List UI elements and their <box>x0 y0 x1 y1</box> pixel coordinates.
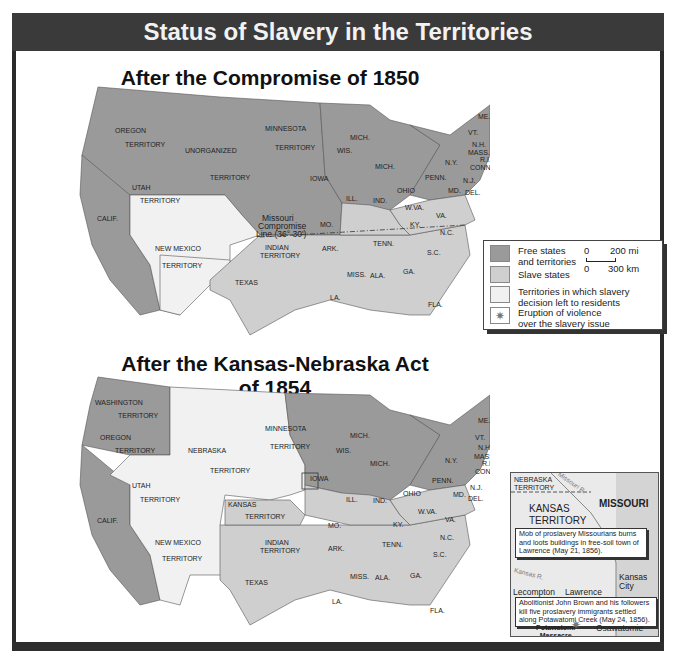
svg-text:TENN.: TENN. <box>382 541 403 548</box>
svg-text:NEBRASKA: NEBRASKA <box>188 447 226 454</box>
svg-text:N.Y.: N.Y. <box>445 457 458 464</box>
svg-text:FLA.: FLA. <box>428 301 443 308</box>
svg-text:N.H.: N.H. <box>472 141 486 148</box>
svg-text:R.I.: R.I. <box>482 460 490 467</box>
svg-text:W.VA.: W.VA. <box>418 508 437 515</box>
svg-text:LA.: LA. <box>332 598 343 605</box>
starburst-icon: ✷ <box>490 307 510 324</box>
svg-text:VT.: VT. <box>468 129 478 136</box>
svg-text:TERRITORY: TERRITORY <box>275 144 316 151</box>
svg-text:MD.: MD. <box>453 491 466 498</box>
svg-text:MICH.: MICH. <box>350 432 370 439</box>
svg-text:S.C.: S.C. <box>433 551 447 558</box>
svg-text:TERRITORY: TERRITORY <box>118 412 159 419</box>
svg-text:VA.: VA. <box>445 516 456 523</box>
svg-text:INDIAN: INDIAN <box>265 244 289 251</box>
svg-text:TENN.: TENN. <box>373 240 394 247</box>
legend-item-violence: ✷ Eruption of violenceover the slavery i… <box>490 307 610 329</box>
svg-text:MD.: MD. <box>448 187 461 194</box>
free-swatch <box>490 245 510 262</box>
map-1854: WASHINGTON TERRITORY OREGON TERRITORY NE… <box>70 375 490 635</box>
svg-text:OHIO: OHIO <box>403 490 421 497</box>
svg-text:MO.: MO. <box>328 522 341 529</box>
svg-text:IND.: IND. <box>373 497 387 504</box>
svg-text:ME.: ME. <box>478 113 490 120</box>
svg-text:ILL.: ILL. <box>346 496 358 503</box>
svg-text:INDIAN: INDIAN <box>265 539 289 546</box>
svg-text:UNORGANIZED: UNORGANIZED <box>185 147 237 154</box>
svg-text:TERRITORY: TERRITORY <box>260 252 301 259</box>
svg-text:TERRITORY: TERRITORY <box>245 513 286 520</box>
svg-text:NEW MEXICO: NEW MEXICO <box>155 539 201 546</box>
svg-text:NEW MEXICO: NEW MEXICO <box>155 245 201 252</box>
svg-text:N.J.: N.J. <box>463 177 476 184</box>
svg-text:UTAH: UTAH <box>132 482 151 489</box>
kansas-inset-map: NEBRASKATERRITORY Missouri R. MISSOURI K… <box>510 472 659 637</box>
svg-text:MINNESOTA: MINNESOTA <box>265 425 306 432</box>
svg-text:PENN.: PENN. <box>425 174 446 181</box>
svg-text:MISS.: MISS. <box>350 573 369 580</box>
svg-text:TERRITORY: TERRITORY <box>260 547 301 554</box>
svg-text:IND.: IND. <box>373 197 387 204</box>
svg-text:ARK.: ARK. <box>328 545 344 552</box>
svg-text:MICH.: MICH. <box>370 460 390 467</box>
svg-text:VT.: VT. <box>475 434 485 441</box>
svg-text:W.VA.: W.VA. <box>405 204 424 211</box>
svg-text:KY.: KY. <box>393 521 403 528</box>
svg-text:KY.: KY. <box>410 221 420 228</box>
svg-text:S.C.: S.C. <box>427 249 441 256</box>
frame-bottom-border <box>12 642 664 651</box>
svg-text:UTAH: UTAH <box>132 184 151 191</box>
svg-text:N.J.: N.J. <box>470 484 483 491</box>
open-swatch <box>490 286 510 303</box>
svg-text:N.C.: N.C. <box>440 534 454 541</box>
svg-text:MO.: MO. <box>320 221 333 228</box>
svg-text:OREGON: OREGON <box>115 127 146 134</box>
svg-text:R.I.: R.I. <box>480 156 490 163</box>
svg-text:TEXAS: TEXAS <box>235 279 258 286</box>
svg-text:ARK.: ARK. <box>322 245 338 252</box>
svg-text:DEL.: DEL. <box>465 189 481 196</box>
svg-text:MICH.: MICH. <box>350 134 370 141</box>
svg-text:GA.: GA. <box>410 572 422 579</box>
svg-text:TERRITORY: TERRITORY <box>115 447 156 454</box>
scale-bar: 0 200 mi 0 300 km <box>584 245 658 281</box>
svg-text:TERRITORY: TERRITORY <box>125 141 166 148</box>
svg-text:MASS.: MASS. <box>468 149 490 156</box>
svg-text:MINNESOTA: MINNESOTA <box>265 125 306 132</box>
svg-text:OHIO: OHIO <box>397 187 415 194</box>
label-potawatomi-massacre: PotawatomiMassacre <box>536 624 575 637</box>
svg-text:FLA.: FLA. <box>430 607 445 614</box>
svg-text:TERRITORY: TERRITORY <box>270 443 311 450</box>
page-title: Status of Slavery in the Territories <box>12 13 664 51</box>
svg-text:PENN.: PENN. <box>432 477 453 484</box>
starburst-icon: ✷ <box>571 618 581 632</box>
svg-text:ILL.: ILL. <box>346 195 358 202</box>
map-1850: OREGON TERRITORY UNORGANIZED TERRITORY M… <box>70 85 490 345</box>
svg-text:N.C.: N.C. <box>440 229 454 236</box>
svg-text:OREGON: OREGON <box>100 434 131 441</box>
svg-text:VA.: VA. <box>436 212 447 219</box>
svg-text:TERRITORY: TERRITORY <box>162 262 203 269</box>
label-kansas-territory: KANSASTERRITORY <box>529 503 586 527</box>
label-missouri: MISSOURI <box>599 498 648 509</box>
svg-text:TERRITORY: TERRITORY <box>162 555 203 562</box>
label-nebraska-territory: NEBRASKATERRITORY <box>514 476 554 492</box>
svg-text:MASS.: MASS. <box>474 453 490 460</box>
svg-text:CONN.: CONN. <box>475 468 490 475</box>
svg-text:TERRITORY: TERRITORY <box>210 174 251 181</box>
svg-text:ALA.: ALA. <box>370 272 385 279</box>
svg-text:TERRITORY: TERRITORY <box>210 467 251 474</box>
svg-text:ALA.: ALA. <box>375 574 390 581</box>
svg-text:WIS.: WIS. <box>337 147 352 154</box>
svg-text:TERRITORY: TERRITORY <box>140 197 181 204</box>
map-legend: Free statesand territories Slave states … <box>483 240 663 330</box>
svg-text:WIS.: WIS. <box>336 447 351 454</box>
svg-text:LA.: LA. <box>330 294 341 301</box>
label-osawatomie: Osawatomie <box>596 623 643 633</box>
note-lawrence-sack: Mob of proslavery Missourians burns and … <box>515 528 647 558</box>
svg-text:ME.: ME. <box>478 417 490 424</box>
svg-text:Line (36° 30'): Line (36° 30') <box>256 229 307 239</box>
slave-swatch <box>490 266 510 283</box>
svg-text:CONN.: CONN. <box>470 164 490 171</box>
